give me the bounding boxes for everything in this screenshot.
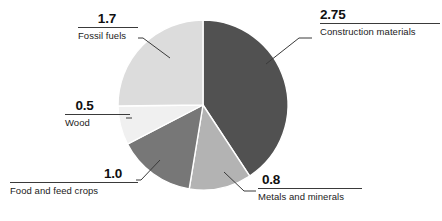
callout-label: Food and feed crops (10, 184, 138, 197)
callout-value: 1.7 (78, 11, 138, 26)
callout-label: Wood (65, 116, 130, 129)
callout-construction-materials: 2.75 Construction materials (320, 7, 440, 38)
pie-chart-figure: 2.75 Construction materials 1.7 Fossil f… (0, 0, 442, 221)
callout-label: Construction materials (320, 25, 440, 38)
callout-wood: 0.5 Wood (65, 98, 130, 129)
callout-value: 0.8 (258, 172, 362, 187)
callout-value: 0.5 (65, 98, 130, 113)
callout-underline (320, 23, 440, 24)
callout-food-and-feed-crops: 1.0 Food and feed crops (10, 166, 138, 197)
callout-metals-and-minerals: 0.8 Metals and minerals (258, 172, 362, 203)
callout-value: 2.75 (320, 7, 440, 22)
callout-label: Metals and minerals (258, 190, 362, 203)
callout-underline (65, 114, 130, 115)
callout-fossil-fuels: 1.7 Fossil fuels (78, 11, 138, 42)
callout-value: 1.0 (10, 166, 138, 181)
callout-underline (78, 27, 138, 28)
callout-underline (10, 182, 138, 183)
callout-underline (258, 188, 362, 189)
callout-label: Fossil fuels (78, 29, 138, 42)
pie-slice-group (118, 20, 288, 190)
